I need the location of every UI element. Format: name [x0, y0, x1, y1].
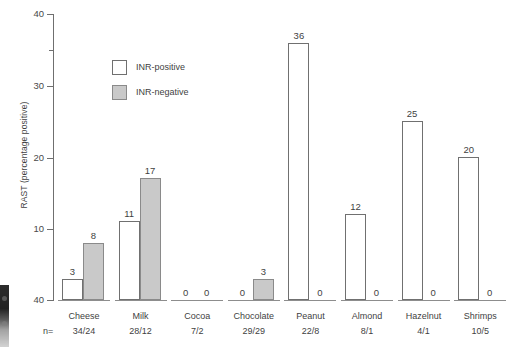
rast-bar-chart: RAST (percentage positive) 40 30 20 10 4…: [0, 0, 508, 347]
value-label-shrimps-inr-negative: 0: [477, 287, 503, 298]
sample-size-almond: 8/1: [341, 326, 393, 336]
plot-area: 38Cheese34/241117Milk28/1200Cocoa7/203Ch…: [53, 0, 508, 347]
sample-size-chocolate: 29/29: [228, 326, 280, 336]
value-label-hazelnut-inr-negative: 0: [420, 287, 446, 298]
value-label-cheese-inr-negative: 8: [81, 230, 107, 241]
category-label-milk: Milk: [115, 311, 167, 321]
y-tick-label-30: 30: [10, 80, 44, 91]
scan-artifact-dot: [2, 321, 7, 326]
y-tick-label-40: 40: [10, 8, 44, 19]
bar-group-almond: 120Almond8/1: [341, 0, 393, 347]
group-baseline: [228, 300, 280, 301]
value-label-peanut-inr-positive: 36: [286, 30, 312, 41]
category-label-cocoa: Cocoa: [171, 311, 223, 321]
value-label-almond-inr-positive: 12: [343, 201, 369, 212]
category-label-peanut: Peanut: [284, 311, 336, 321]
bar-cheese-inr-positive: [62, 279, 83, 300]
category-label-hazelnut: Hazelnut: [398, 311, 450, 321]
group-baseline: [398, 300, 450, 301]
value-label-hazelnut-inr-positive: 25: [399, 108, 425, 119]
y-tick-label-20: 20: [10, 152, 44, 163]
sample-size-peanut: 22/8: [284, 326, 336, 336]
bar-hazelnut-inr-positive: [402, 121, 423, 300]
category-label-shrimps: Shrimps: [454, 311, 506, 321]
bar-peanut-inr-positive: [288, 43, 309, 300]
scan-artifact-dot: [2, 296, 7, 301]
group-baseline: [115, 300, 167, 301]
sample-size-milk: 28/12: [115, 326, 167, 336]
value-label-shrimps-inr-positive: 20: [456, 144, 482, 155]
value-label-almond-inr-negative: 0: [364, 287, 390, 298]
n-equals-label: n=: [43, 326, 53, 336]
bar-milk-inr-positive: [119, 221, 140, 300]
sample-size-cocoa: 7/2: [171, 326, 223, 336]
category-label-chocolate: Chocolate: [228, 311, 280, 321]
sample-size-shrimps: 10/5: [454, 326, 506, 336]
value-label-milk-inr-negative: 17: [137, 165, 163, 176]
bar-group-shrimps: 200Shrimps10/5: [454, 0, 506, 347]
bar-group-peanut: 360Peanut22/8: [284, 0, 336, 347]
y-tick-label-0: 40: [10, 294, 44, 305]
category-label-almond: Almond: [341, 311, 393, 321]
bar-group-cocoa: 00Cocoa7/2: [171, 0, 223, 347]
group-baseline: [284, 300, 336, 301]
value-label-milk-inr-positive: 11: [116, 208, 142, 219]
bar-group-hazelnut: 250Hazelnut4/1: [398, 0, 450, 347]
bar-chocolate-inr-negative: [253, 279, 274, 300]
value-label-cheese-inr-positive: 3: [60, 266, 86, 277]
value-label-chocolate-inr-negative: 3: [250, 266, 276, 277]
group-baseline: [58, 300, 110, 301]
value-label-peanut-inr-negative: 0: [307, 287, 333, 298]
value-label-chocolate-inr-positive: 0: [229, 287, 255, 298]
bar-group-chocolate: 03Chocolate29/29: [228, 0, 280, 347]
bar-group-milk: 1117Milk28/12: [115, 0, 167, 347]
bar-cheese-inr-negative: [83, 243, 104, 300]
bar-shrimps-inr-positive: [458, 157, 479, 300]
bar-group-cheese: 38Cheese34/24: [58, 0, 110, 347]
sample-size-hazelnut: 4/1: [398, 326, 450, 336]
y-tick-label-10: 10: [10, 223, 44, 234]
group-baseline: [171, 300, 223, 301]
value-label-cocoa-inr-negative: 0: [194, 287, 220, 298]
category-label-cheese: Cheese: [58, 311, 110, 321]
bar-milk-inr-negative: [140, 178, 161, 300]
group-baseline: [341, 300, 393, 301]
group-baseline: [454, 300, 506, 301]
sample-size-cheese: 34/24: [58, 326, 110, 336]
scan-edge-artifact: [0, 285, 9, 347]
